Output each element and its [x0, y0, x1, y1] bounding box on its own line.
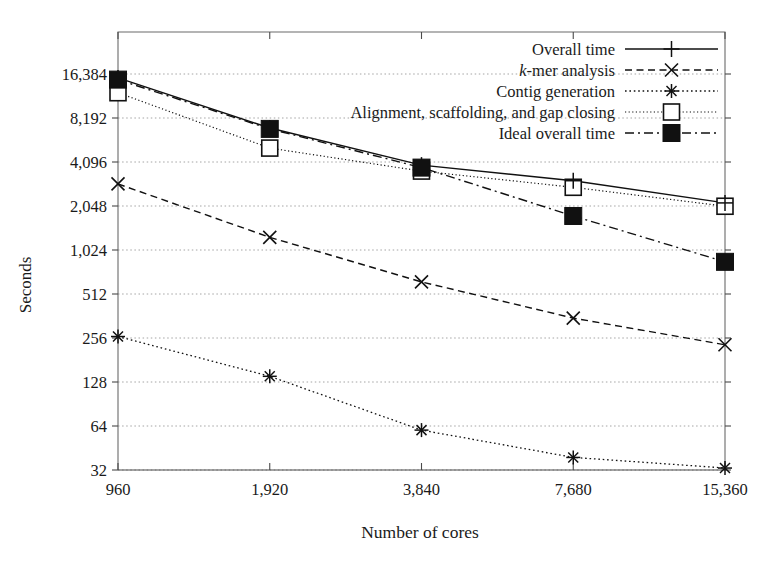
figure-container: 32641282565121,0242,0484,0968,19216,384 … — [0, 0, 767, 564]
line-chart: 32641282565121,0242,0484,0968,19216,384 … — [0, 0, 767, 564]
legend-label-alignment-scaffolding-and-gap-closing: Alignment, scaffolding, and gap closing — [350, 103, 615, 122]
marker-filled-square — [717, 253, 734, 270]
y-tick-label-128: 128 — [82, 373, 107, 392]
marker-alignment-scaffolding-and-gap-closing-1920 — [262, 140, 278, 156]
marker-open-square — [262, 140, 278, 156]
marker-ideal-overall-time-1920 — [261, 120, 278, 137]
y-axis-title: Seconds — [16, 257, 35, 314]
legend-label-k-mer-analysis: k-mer analysis — [519, 61, 615, 80]
marker-filled-square — [565, 207, 582, 224]
y-tick-label-2048: 2,048 — [70, 197, 107, 216]
marker-filled-square — [413, 159, 430, 176]
legend-label-rest: -mer analysis — [527, 61, 615, 80]
marker-filled-square — [663, 125, 680, 142]
x-tick-label-15360: 15,360 — [702, 480, 747, 499]
legend-marker-contig-generation — [665, 84, 679, 98]
marker-open-square — [664, 104, 680, 120]
y-tick-label-256: 256 — [82, 329, 107, 348]
marker-ideal-overall-time-7680 — [565, 207, 582, 224]
x-tick-label-1920: 1,920 — [251, 480, 288, 499]
y-tick-label-1024: 1,024 — [70, 241, 107, 260]
marker-ideal-overall-time-15360 — [717, 253, 734, 270]
marker-ideal-overall-time-3840 — [413, 159, 430, 176]
marker-filled-square — [110, 71, 127, 88]
legend-marker-alignment-scaffolding-and-gap-closing — [664, 104, 680, 120]
legend-entry-alignment-scaffolding-and-gap-closing[interactable]: Alignment, scaffolding, and gap closing — [350, 103, 718, 122]
marker-contig-generation-15360 — [718, 461, 732, 475]
marker-contig-generation-3840 — [415, 423, 429, 437]
y-tick-label-4096: 4,096 — [70, 153, 107, 172]
x-tick-label-7680: 7,680 — [555, 480, 592, 499]
x-tick-label-3840: 3,840 — [403, 480, 440, 499]
marker-ideal-overall-time-960 — [110, 71, 127, 88]
marker-contig-generation-1920 — [263, 369, 277, 383]
marker-filled-square — [261, 120, 278, 137]
legend-label-ideal-overall-time: Ideal overall time — [499, 124, 615, 143]
legend-marker-ideal-overall-time — [663, 125, 680, 142]
x-axis-title: Number of cores — [361, 522, 479, 542]
y-tick-label-64: 64 — [91, 417, 108, 436]
x-tick-label-960: 960 — [106, 480, 131, 499]
y-tick-label-512: 512 — [82, 285, 107, 304]
marker-contig-generation-960 — [111, 330, 125, 344]
legend-label-overall-time: Overall time — [532, 40, 615, 59]
y-tick-label-16384: 16,384 — [62, 65, 107, 84]
y-tick-label-8192: 8,192 — [70, 109, 107, 128]
legend-label-contig-generation: Contig generation — [496, 82, 615, 101]
marker-contig-generation-7680 — [566, 450, 580, 464]
y-tick-label-32: 32 — [91, 461, 108, 480]
